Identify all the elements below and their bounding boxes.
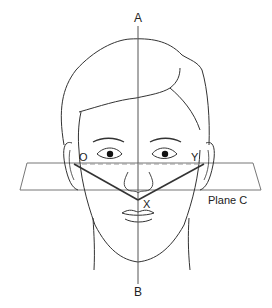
neck-right xyxy=(188,218,190,270)
label-x: X xyxy=(143,199,150,210)
right-pupil xyxy=(162,151,168,157)
left-pupil xyxy=(107,151,113,157)
left-ear-inner xyxy=(69,150,74,180)
label-y: Y xyxy=(191,152,198,163)
label-o: O xyxy=(79,152,88,163)
face-drawing xyxy=(0,0,272,308)
line-y-x xyxy=(138,164,204,200)
label-plane-c: Plane C xyxy=(208,195,247,206)
face-diagram: A B O Y X Plane C xyxy=(0,0,272,308)
left-eyebrow xyxy=(93,138,124,142)
label-b: B xyxy=(134,286,142,298)
right-ear xyxy=(200,142,214,190)
temple-left xyxy=(78,112,81,150)
hair-outline xyxy=(61,39,209,145)
face-left-contour xyxy=(79,150,138,262)
hair-part-right xyxy=(170,88,200,130)
right-eyebrow xyxy=(150,138,181,142)
line-o-x xyxy=(74,164,138,200)
hairline xyxy=(79,68,180,112)
neck-left xyxy=(93,218,94,270)
label-a: A xyxy=(134,12,142,24)
left-ear xyxy=(64,142,78,190)
right-ear-inner xyxy=(204,150,209,180)
plane-c-shape xyxy=(20,163,261,190)
